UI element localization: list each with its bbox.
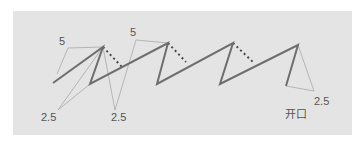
dimension-line	[286, 86, 314, 91]
dimension-line	[136, 40, 168, 43]
dimension-line	[57, 48, 68, 74]
dimension-label-2-5-left: 2.5	[41, 112, 56, 123]
zigzag-stitch-line	[53, 43, 298, 86]
dimension-label-2-5-mid: 2.5	[111, 112, 126, 123]
dimension-label-5-mid: 5	[130, 27, 136, 38]
dimension-line	[103, 47, 115, 110]
dimension-line	[68, 47, 103, 48]
dimension-lines	[57, 40, 314, 110]
dimension-label-5-left: 5	[59, 36, 65, 47]
dimension-line	[298, 45, 314, 91]
dimension-line	[115, 40, 136, 110]
dimension-label-2-5-right: 2.5	[314, 96, 329, 107]
dotted-guide-line	[233, 43, 254, 63]
dotted-guide-line	[168, 43, 186, 62]
opening-label: 开口	[285, 109, 307, 120]
